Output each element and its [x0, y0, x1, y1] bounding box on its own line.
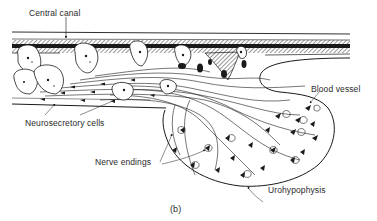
label-blood-vessel: Blood vessel — [311, 85, 360, 94]
label-nerve-endings: Nerve endings — [95, 158, 151, 167]
label-neurosecretory-cells: Neurosecretory cells — [25, 119, 104, 128]
label-urohypophysis: Urohypophysis — [268, 186, 326, 195]
figure-caption: (b) — [170, 205, 181, 214]
label-central-canal: Central canal — [29, 9, 80, 18]
